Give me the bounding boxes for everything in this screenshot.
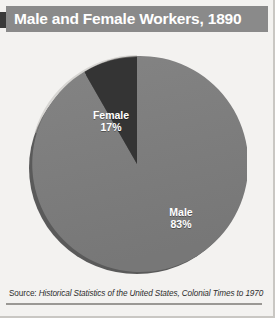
pie-label-female-value: 17% bbox=[75, 121, 147, 133]
pie-label-male: Male 83% bbox=[145, 206, 217, 230]
pie-label-male-name: Male bbox=[145, 206, 217, 218]
source-prefix: Source: bbox=[9, 289, 37, 298]
pie-slice-male bbox=[32, 56, 247, 272]
pie-chart-svg bbox=[27, 54, 247, 274]
source-title: Historical Statistics of the United Stat… bbox=[39, 289, 264, 298]
plot-area: Female 17% Male 83% bbox=[0, 34, 271, 280]
pie-label-female: Female 17% bbox=[75, 109, 147, 133]
source-divider bbox=[6, 303, 262, 305]
pie-chart: Female 17% Male 83% bbox=[27, 54, 247, 274]
page-title: Male and Female Workers, 1890 bbox=[14, 7, 266, 31]
chart-figure: Male and Female Workers, 1890 bbox=[0, 0, 275, 318]
pie-label-female-name: Female bbox=[75, 109, 147, 121]
pie-label-male-value: 83% bbox=[145, 218, 217, 230]
source-note: Source: Historical Statistics of the Uni… bbox=[9, 288, 265, 299]
